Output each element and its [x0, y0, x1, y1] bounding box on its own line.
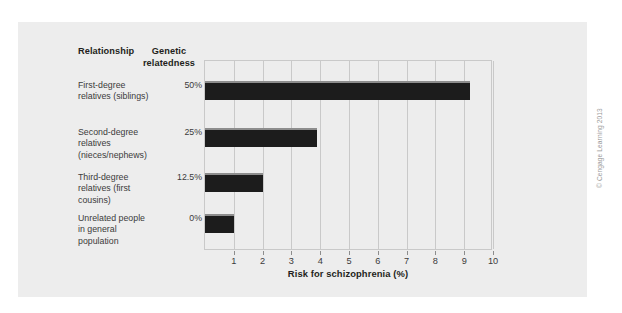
- gridline: [493, 61, 494, 249]
- x-axis-tick-label: 5: [337, 256, 361, 266]
- copyright-credit: © Cengage Learning 2013: [596, 108, 603, 188]
- x-axis-tick: [263, 251, 264, 255]
- x-axis-tick: [291, 251, 292, 255]
- x-axis-tick: [407, 251, 408, 255]
- bar: [205, 128, 317, 147]
- x-axis-title: Risk for schizophrenia (%): [204, 268, 492, 279]
- x-axis-tick: [349, 251, 350, 255]
- x-axis-tick: [464, 251, 465, 255]
- row-label-relationship: First-degree relatives (siblings): [78, 80, 154, 103]
- column-header-relationship: Relationship: [78, 46, 134, 58]
- x-axis-tick-label: 2: [251, 256, 275, 266]
- bar: [205, 173, 263, 192]
- x-axis-tick-label: 8: [423, 256, 447, 266]
- x-axis-tick: [378, 251, 379, 255]
- x-axis-tick-label: 6: [366, 256, 390, 266]
- row-label-relationship: Third-degree relatives (first cousins): [78, 172, 154, 206]
- x-axis-tick: [320, 251, 321, 255]
- x-axis-tick: [493, 251, 494, 255]
- x-axis-tick-label: 4: [308, 256, 332, 266]
- row-value-genetic-relatedness: 50%: [152, 80, 202, 91]
- x-axis-tick-label: 10: [481, 256, 505, 266]
- x-axis-tick-label: 9: [452, 256, 476, 266]
- x-axis-tick-label: 3: [279, 256, 303, 266]
- x-axis-tick: [435, 251, 436, 255]
- x-axis-tick-label: 7: [395, 256, 419, 266]
- row-value-genetic-relatedness: 25%: [152, 127, 202, 138]
- row-value-genetic-relatedness: 0%: [152, 213, 202, 224]
- x-axis-tick: [234, 251, 235, 255]
- row-label-relationship: Second-degree relatives (nieces/nephews): [78, 127, 154, 161]
- figure-container: Relationship Genetic relatedness First-d…: [0, 0, 622, 313]
- bar: [205, 214, 234, 233]
- row-label-relationship: Unrelated people in general population: [78, 213, 154, 247]
- row-value-genetic-relatedness: 12.5%: [152, 172, 202, 183]
- column-header-genetic-relatedness: Genetic relatedness: [136, 46, 202, 69]
- x-axis-tick-label: 1: [222, 256, 246, 266]
- plot-area: 12345678910: [204, 60, 492, 250]
- bar: [205, 81, 470, 100]
